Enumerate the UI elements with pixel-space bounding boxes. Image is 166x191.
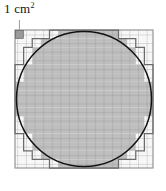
area-estimation-figure: 1 cm2 bbox=[0, 0, 166, 191]
circle-grid-diagram bbox=[0, 0, 166, 191]
area-label-exponent: 2 bbox=[30, 1, 34, 10]
grid-lines bbox=[15, 30, 153, 168]
area-label-text: 1 cm bbox=[4, 1, 30, 16]
area-label: 1 cm2 bbox=[4, 2, 35, 15]
reference-cell bbox=[15, 30, 23, 38]
